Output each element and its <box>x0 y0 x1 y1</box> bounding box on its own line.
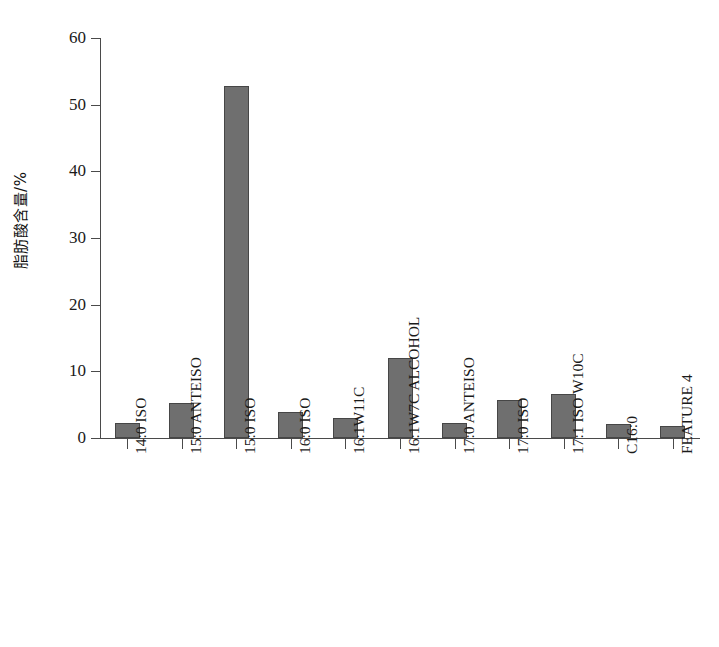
x-axis-label: C16:0 <box>624 416 640 454</box>
x-axis-tick <box>127 438 128 449</box>
y-axis-title-label: 脂肪酸含量/% <box>10 171 31 269</box>
x-axis-label: FEATURE 4 <box>679 374 695 454</box>
x-axis-label: 17:0 ANTEISO <box>461 357 477 454</box>
y-axis-tick: 60 <box>91 38 100 39</box>
y-axis-tick-label: 10 <box>69 361 86 381</box>
y-axis-tick-label: 20 <box>69 295 86 315</box>
y-axis-tick-label: 40 <box>69 161 86 181</box>
x-axis-label: 14:0 ISO <box>133 398 149 454</box>
x-axis-label: 15:0 ISO <box>242 398 258 454</box>
y-axis-tick: 10 <box>91 371 100 372</box>
x-axis-label: 16:1W11C <box>351 387 367 454</box>
x-axis-label: 17:1 ISO W10C <box>570 354 586 454</box>
y-axis-tick: 0 <box>91 438 100 439</box>
y-axis-tick: 40 <box>91 171 100 172</box>
y-axis-tick-label: 30 <box>69 228 86 248</box>
x-axis-tick <box>673 438 674 449</box>
x-axis-tick <box>455 438 456 449</box>
y-axis-tick: 50 <box>91 105 100 106</box>
y-axis-tick-label: 50 <box>69 95 86 115</box>
x-axis-tick <box>182 438 183 449</box>
x-axis-tick <box>291 438 292 449</box>
y-axis-title: 脂肪酸含量/% <box>0 0 40 440</box>
x-axis-tick <box>618 438 619 449</box>
bar <box>224 86 249 438</box>
bar-chart: 脂肪酸含量/% 0102030405060 14:0 ISO15:0 ANTEI… <box>0 0 719 647</box>
x-axis-tick <box>400 438 401 449</box>
x-axis-tick <box>564 438 565 449</box>
x-axis-tick <box>509 438 510 449</box>
y-axis-line <box>100 38 101 438</box>
x-axis-label: 16:0 ISO <box>297 398 313 454</box>
x-axis-label: 16:1W7C ALCOHOL <box>406 317 422 454</box>
y-axis-tick-label: 0 <box>78 428 87 448</box>
x-axis-tick <box>345 438 346 449</box>
x-axis-label: 15:0 ANTEISO <box>188 357 204 454</box>
y-axis-tick-label: 60 <box>69 28 86 48</box>
plot-area: 0102030405060 14:0 ISO15:0 ANTEISO15:0 I… <box>100 38 700 438</box>
y-axis-tick: 30 <box>91 238 100 239</box>
x-axis-label: 17:0 ISO <box>515 398 531 454</box>
x-axis-tick <box>236 438 237 449</box>
y-axis-tick: 20 <box>91 305 100 306</box>
